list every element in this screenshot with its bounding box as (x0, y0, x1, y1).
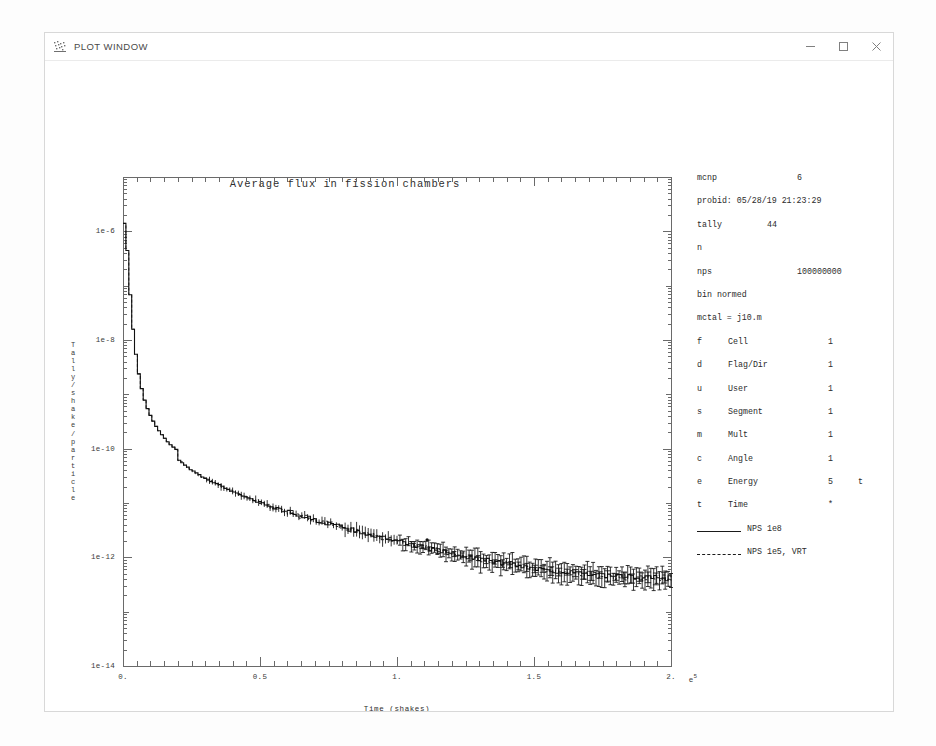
bin-row: tTime* (697, 500, 893, 523)
bin-name: Mult (728, 430, 748, 439)
window-controls (794, 33, 893, 60)
bin-name: Energy (728, 477, 758, 486)
bin-value: 1 (828, 454, 833, 463)
info-row-label: probid: 05/28/19 21:23:29 (697, 196, 821, 205)
bin-value: 5 (828, 477, 833, 486)
minimize-button[interactable] (794, 33, 827, 60)
bin-key: t (697, 500, 702, 509)
bin-row: mMult1 (697, 430, 893, 453)
window-titlebar[interactable]: PLOT WINDOW (45, 33, 893, 61)
close-button[interactable] (860, 33, 893, 60)
info-row: bin normed (697, 290, 893, 313)
info-row: mctal = j10.m (697, 313, 893, 336)
legend-line-swatch (697, 531, 741, 532)
info-row: nps100000000 (697, 267, 893, 290)
info-row: mcnp6 (697, 173, 893, 196)
bin-value: 1 (828, 337, 833, 346)
info-row-label: mctal = j10.m (697, 313, 762, 322)
bin-key: d (697, 360, 702, 369)
bin-key: e (697, 477, 702, 486)
legend-line-swatch (697, 554, 741, 555)
window-title: PLOT WINDOW (74, 41, 148, 52)
info-row-label: tally (697, 220, 722, 229)
bin-value: 1 (828, 407, 833, 416)
bin-row: cAngle1 (697, 454, 893, 477)
legend-label: NPS 1e8 (747, 524, 782, 533)
bin-name: Cell (728, 337, 748, 346)
bin-value: 1 (828, 360, 833, 369)
series-nps-1e5-vrt (123, 223, 671, 580)
info-row: n (697, 243, 893, 266)
info-row: probid: 05/28/19 21:23:29 (697, 196, 893, 219)
bin-name: User (728, 384, 748, 393)
maximize-button[interactable] (827, 33, 860, 60)
bin-key: s (697, 407, 702, 416)
info-row-value: 100000000 (797, 267, 842, 276)
bin-name: Flag/Dir (728, 360, 768, 369)
bin-row: uUser1 (697, 384, 893, 407)
bin-row: dFlag/Dir1 (697, 360, 893, 383)
page-backdrop: PLOT WINDOW Average flux in fission cham… (0, 0, 936, 746)
annotation-point (426, 538, 429, 541)
bin-key: u (697, 384, 702, 393)
bin-value: 1 (828, 430, 833, 439)
bin-value: * (828, 500, 833, 509)
plot-client-area: Average flux in fission chambers 1e-61e-… (45, 61, 893, 711)
info-row-value: 6 (797, 173, 802, 182)
bin-key: m (697, 430, 702, 439)
bin-row: eEnergy5t (697, 477, 893, 500)
bin-name: Time (728, 500, 748, 509)
bin-extra: t (858, 477, 863, 486)
plot-window: PLOT WINDOW Average flux in fission cham… (44, 32, 894, 712)
bin-name: Angle (728, 454, 753, 463)
bin-row: sSegment1 (697, 407, 893, 430)
info-row-label: nps (697, 267, 712, 276)
series-nps-1e8 (123, 223, 671, 580)
bin-key: f (697, 337, 702, 346)
legend-entry: NPS 1e8 (697, 524, 893, 547)
bin-key: c (697, 454, 702, 463)
info-row-label: n (697, 243, 702, 252)
info-row-label: mcnp (697, 173, 717, 182)
legend-label: NPS 1e5, VRT (747, 547, 807, 556)
scatter-plot-icon (53, 40, 67, 54)
info-row-label: bin normed (697, 290, 747, 299)
info-panel: mcnp6probid: 05/28/19 21:23:29tally44nnp… (697, 173, 893, 571)
bin-row: fCell1 (697, 337, 893, 360)
info-row-value: 44 (767, 220, 777, 229)
bin-value: 1 (828, 384, 833, 393)
info-row: tally44 (697, 220, 893, 243)
legend-entry: NPS 1e5, VRT (697, 547, 893, 570)
bin-name: Segment (728, 407, 763, 416)
